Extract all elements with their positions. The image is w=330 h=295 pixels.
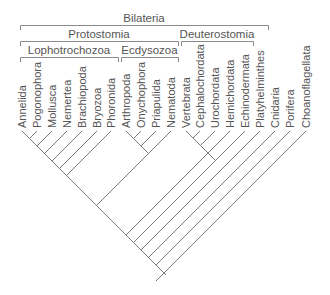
clade-label: Ecdysozoa: [121, 44, 178, 56]
branch-brachiopoda: [52, 131, 82, 161]
branch-urochordata: [201, 131, 216, 146]
taxon-label: Porifera: [284, 89, 296, 128]
branch-ecdysozoa-stem: [97, 154, 149, 206]
branch-phoronida: [67, 131, 112, 176]
taxon-label: Arthropoda: [120, 73, 132, 128]
clade-label: Lophotrochozoa: [28, 44, 111, 56]
branch-main-backbone: [22, 131, 166, 275]
taxon-label: Nemertea: [61, 79, 73, 128]
taxon-label: Hemichordata: [224, 59, 236, 128]
taxon-label: Phoronida: [105, 77, 117, 128]
branch-cnidaria: [149, 131, 276, 258]
branch-onychophora: [134, 131, 142, 139]
branch-echinodermata: [216, 131, 246, 161]
branch-nemertea: [45, 131, 68, 154]
branch-mollusca: [37, 131, 52, 146]
taxon-label: Cnidaria: [269, 86, 281, 128]
branch-bryozoa: [60, 131, 98, 169]
taxon-label: Urochordata: [209, 67, 221, 128]
taxon-label: Pogonophora: [31, 61, 43, 128]
taxon-label: Platyhelminthes: [254, 50, 266, 128]
taxon-label: Bryozoa: [91, 87, 103, 128]
taxon-label: Nematoda: [165, 76, 177, 128]
clade-bracket-deuterostomia: Deuterostomia: [180, 28, 255, 46]
branch-nematoda: [149, 131, 172, 154]
branch-porifera: [156, 131, 290, 265]
taxon-label: Onychophora: [135, 61, 147, 128]
taxon-label: Mollusca: [46, 84, 58, 128]
clade-label: Bilateria: [123, 12, 165, 24]
phylogenetic-tree: BilateriaProtostomiaDeuterostomiaLophotr…: [0, 0, 330, 295]
branch-deuterostomia-stem: [126, 153, 208, 235]
taxon-label: Choanoflagellata: [300, 45, 312, 128]
branch-deuterostomia-backbone: [208, 153, 216, 161]
taxon-label: Priapulida: [150, 78, 162, 128]
clade-bracket-lophotrochozoa: Lophotrochozoa: [21, 44, 119, 62]
branch-deuterostomia-stem: [134, 161, 216, 243]
taxon-label: Echinodermata: [239, 53, 251, 128]
clade-label: Protostomia: [68, 28, 130, 40]
clade-label: Deuterostomia: [180, 28, 255, 40]
branch-platyhelminthes: [141, 131, 260, 250]
taxon-label: Brachiopoda: [76, 65, 88, 128]
taxon-label: Vertebrata: [180, 76, 192, 128]
branch-choanoflagellata: [164, 131, 306, 273]
taxon-label: Annelida: [16, 84, 28, 128]
taxon-label: Cephalochordata: [194, 43, 206, 128]
branch-priapulida: [141, 131, 156, 146]
branch-pogonophora: [30, 131, 38, 139]
branch-cephalochordata: [193, 131, 200, 138]
branch-root: [156, 273, 164, 281]
clade-bracket-ecdysozoa: Ecdysozoa: [121, 44, 178, 62]
